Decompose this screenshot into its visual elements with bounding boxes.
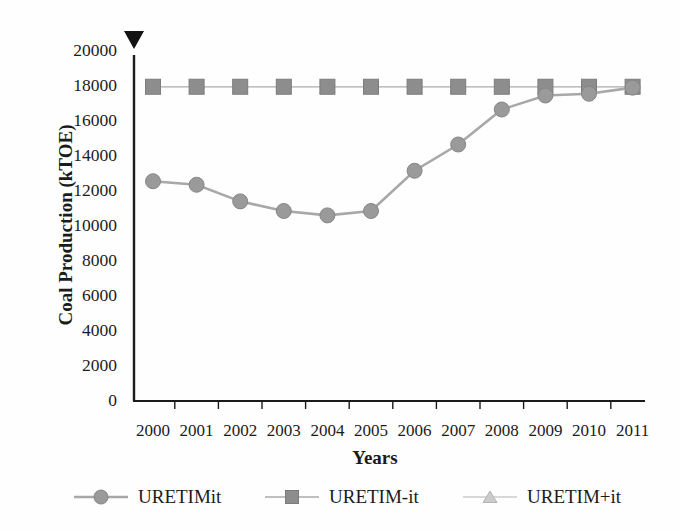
chart-legend: URETIMit URETIM-it URETIM+it (0, 484, 680, 512)
triangle-marker-icon (462, 487, 518, 507)
down-triangle-icon (124, 31, 144, 49)
y-tick-label: 12000 (73, 180, 117, 200)
x-tick-label: 2006 (398, 421, 432, 440)
y-tick-label: 18000 (73, 75, 117, 95)
data-point-URETIM-it (146, 79, 161, 94)
legend-label: URETIM+it (527, 486, 621, 508)
legend-item-uretim-plus-it: URETIM+it (462, 484, 621, 510)
data-point-URETIMit (276, 204, 291, 219)
data-point-URETIM-it (189, 79, 204, 94)
data-point-URETIM-it (233, 79, 248, 94)
data-point-URETIMit (407, 163, 422, 178)
data-point-URETIM-it (451, 79, 466, 94)
data-point-URETIMit (625, 80, 640, 95)
data-point-URETIMit (538, 88, 553, 103)
y-tick-label: 6000 (82, 285, 117, 305)
legend-marker (94, 490, 108, 504)
data-point-URETIMit (233, 194, 248, 209)
y-tick-label: 10000 (73, 215, 117, 235)
y-axis-title: Coal Production (kTOE) (55, 55, 77, 395)
data-point-URETIMit (146, 174, 161, 189)
x-tick-label: 2002 (223, 421, 257, 440)
series-line-URETIMit (153, 88, 633, 216)
y-tick-label: 16000 (73, 110, 117, 130)
data-point-URETIM-it (494, 79, 509, 94)
x-tick-label: 2011 (616, 421, 649, 440)
data-point-URETIMit (582, 86, 597, 101)
data-point-URETIMit (364, 204, 379, 219)
x-tick-label: 2008 (485, 421, 519, 440)
data-point-URETIM-it (320, 79, 335, 94)
legend-item-uretim-minus-it: URETIM-it (264, 484, 419, 510)
legend-label: URETIM-it (329, 486, 419, 508)
legend-label: URETIMit (138, 486, 221, 508)
data-point-URETIM-it (364, 79, 379, 94)
x-tick-label: 2010 (572, 421, 606, 440)
y-tick-label: 20000 (73, 40, 117, 60)
data-point-URETIMit (189, 177, 204, 192)
legend-item-uretimit: URETIMit (73, 484, 221, 510)
x-tick-label: 2005 (354, 421, 388, 440)
x-tick-label: 2004 (310, 421, 345, 440)
coal-production-chart-figure: Coal Production (kTOE) 20002001200220032… (0, 0, 680, 531)
y-tick-label: 0 (108, 390, 117, 410)
y-tick-label: 14000 (73, 145, 117, 165)
y-tick-label: 2000 (82, 355, 117, 375)
data-point-URETIM-it (276, 79, 291, 94)
circle-marker-icon (73, 487, 129, 507)
data-point-URETIMit (494, 102, 509, 117)
x-tick-label: 2003 (267, 421, 301, 440)
x-tick-label: 2007 (441, 421, 476, 440)
y-tick-label: 8000 (82, 250, 117, 270)
square-marker-icon (264, 487, 320, 507)
x-tick-label: 2000 (136, 421, 170, 440)
data-point-URETIM-it (407, 79, 422, 94)
data-point-URETIMit (320, 208, 335, 223)
x-axis-title: Years (285, 447, 465, 469)
data-point-URETIMit (451, 137, 466, 152)
x-tick-label: 2001 (180, 421, 214, 440)
y-tick-label: 4000 (82, 320, 117, 340)
legend-marker (286, 491, 299, 504)
x-tick-label: 2009 (528, 421, 562, 440)
